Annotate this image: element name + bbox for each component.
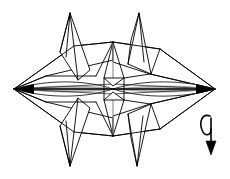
origami-diagram-canvas: Symmetric folded-paper diagram with two … (0, 0, 230, 179)
origami-figure (0, 0, 230, 179)
